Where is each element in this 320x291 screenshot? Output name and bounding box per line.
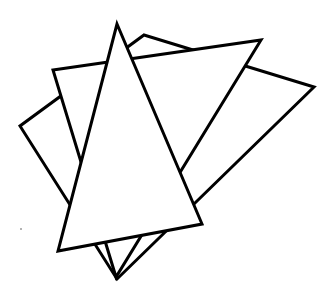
overlapping-triangles-figure bbox=[0, 0, 320, 291]
speck bbox=[20, 228, 22, 230]
